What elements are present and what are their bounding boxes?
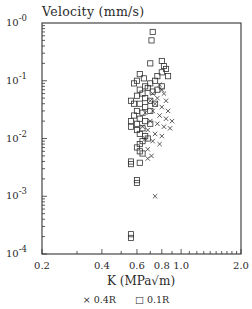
- x-axis-title: K (MPa√m): [107, 274, 175, 288]
- x-tick-label: 2.0: [233, 260, 249, 271]
- x-tick-label: 0.8: [154, 260, 170, 271]
- data-points: [128, 29, 174, 240]
- y-axis-title: Velocity (mm/s): [42, 4, 144, 19]
- axis-ticks: [42, 26, 241, 254]
- y-tick-label: 10-4: [6, 245, 27, 259]
- legend: × 0.4R □ 0.1R: [0, 294, 252, 305]
- x-tick-label: 0.4: [94, 260, 110, 271]
- y-tick-label: 10-0: [6, 14, 27, 28]
- x-tick-label: 0.2: [34, 260, 50, 271]
- legend-item-0.1R: □ 0.1R: [135, 294, 169, 305]
- y-tick-label: 10-1: [6, 72, 27, 86]
- legend-item-0.4R: × 0.4R: [83, 294, 116, 305]
- y-tick-label: 10-2: [6, 130, 27, 144]
- y-tick-label: 10-3: [6, 187, 27, 201]
- x-tick-label: 0.6: [129, 260, 145, 271]
- x-tick-label: 1.0: [173, 260, 189, 271]
